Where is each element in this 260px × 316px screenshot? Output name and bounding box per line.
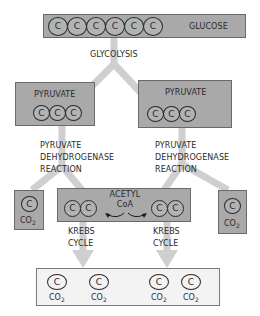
pyruvate-carbon: C	[65, 105, 82, 121]
co2-left-box: C CO2	[14, 190, 44, 230]
metabolic-pathway-diagram: C C C C C C GLUCOSE GLYCOLYSIS PYRUVATE …	[0, 0, 260, 316]
pyruvate-carbon: C	[163, 106, 180, 122]
glucose-carbon: C	[124, 17, 144, 36]
pdh-left-line1: PYRUVATE	[40, 140, 82, 151]
glucose-carbon: C	[67, 17, 87, 36]
pdh-right-line3: REACTION	[155, 164, 197, 175]
acetyl-carbon: C	[80, 200, 97, 217]
pdh-right-line1: PYRUVATE	[155, 140, 197, 151]
final-co2-label: CO2	[49, 294, 65, 303]
glucose-box: C C C C C C GLUCOSE	[43, 14, 246, 38]
glucose-label: GLUCOSE	[189, 21, 228, 32]
pyruvate-carbon: C	[49, 105, 66, 121]
acetyl-carbon: C	[64, 200, 81, 217]
curved-arrows-icon	[102, 209, 150, 221]
final-carbon: C	[181, 274, 201, 290]
pdh-left-line3: REACTION	[40, 164, 82, 175]
final-carbon: C	[47, 274, 67, 290]
krebs-left-line2: CYCLE	[68, 238, 94, 249]
pyruvate-right-box: PYRUVATE C C C	[138, 80, 232, 128]
pyruvate-carbon: C	[33, 105, 50, 121]
acetyl-carbon: C	[167, 200, 184, 217]
pyruvate-left-label: PYRUVATE	[34, 89, 76, 100]
krebs-right-line2: CYCLE	[153, 238, 179, 249]
krebs-left-line1: KREBS	[68, 226, 95, 237]
co2-carbon: C	[224, 198, 241, 214]
glucose-carbon: C	[86, 17, 106, 36]
glycolysis-left-branch-arrow	[92, 64, 114, 86]
final-carbon: C	[149, 274, 169, 290]
final-co2-label: CO2	[183, 294, 199, 303]
final-co2-label: CO2	[151, 294, 167, 303]
co2-right-label: CO2	[224, 220, 240, 229]
glucose-carbon: C	[143, 17, 163, 36]
final-co2-box: C CO2 C CO2 C CO2 C CO2	[36, 268, 220, 306]
pyruvate-right-label: PYRUVATE	[165, 87, 207, 98]
pdh-right-line2: DEHYDROGENASE	[155, 152, 229, 163]
krebs-right-arrowhead	[156, 250, 178, 268]
acetyl-carbon: C	[151, 200, 168, 217]
pyruvate-carbon: C	[179, 106, 196, 122]
final-carbon: C	[89, 274, 109, 290]
co2-left-label: CO2	[20, 217, 36, 226]
pdh-left-line2: DEHYDROGENASE	[40, 152, 114, 163]
acetyl-coa-box: C C ACETYL CoA C C	[57, 188, 191, 222]
pyruvate-carbon: C	[147, 106, 164, 122]
final-co2-label: CO2	[91, 294, 107, 303]
pyruvate-left-box: PYRUVATE C C C	[15, 82, 95, 126]
co2-carbon: C	[21, 196, 38, 212]
glucose-carbon: C	[48, 17, 68, 36]
krebs-left-arrowhead	[72, 250, 94, 268]
krebs-right-line1: KREBS	[153, 226, 180, 237]
glycolysis-label: GLYCOLYSIS	[90, 49, 138, 60]
glucose-carbon: C	[105, 17, 125, 36]
co2-right-box: C CO2	[218, 190, 247, 234]
